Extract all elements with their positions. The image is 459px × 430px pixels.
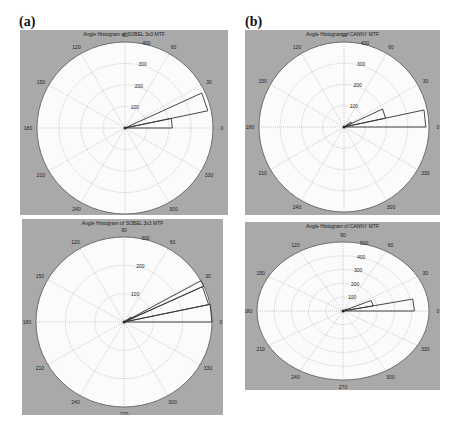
angle-tick-label: 300 [387,204,396,210]
radial-tick-label: 200 [135,83,144,89]
angle-tick-label: 150 [258,78,267,84]
angle-tick-label: 90 [341,32,347,38]
angle-tick-label: 0 [221,125,224,131]
chart-title: Angle Histogram of SOBEL 3x3 MTF [82,220,164,226]
angle-tick-label: 90 [122,32,128,38]
panel-label-b: (b) [245,14,262,30]
angle-tick-label: 240 [293,204,302,210]
radial-tick-label: 500 [360,240,369,246]
angle-tick-label: 60 [170,239,176,245]
angle-tick-label: 120 [293,44,302,50]
angle-tick-label: 240 [71,399,80,405]
angle-tick-label: 150 [257,270,266,276]
angle-tick-label: 60 [388,242,394,248]
angle-tick-label: 330 [204,365,213,371]
angle-tick-label: 0 [220,319,223,325]
polar-plot-svg: Angle Histogram of CANNY MTF100200300400… [245,30,440,215]
radial-tick-label: 300 [141,235,150,241]
chart-title: Angle Histogram of CANNY MTF [306,223,379,229]
angle-tick-label: 150 [36,273,45,279]
angle-tick-label: 30 [422,270,428,276]
polar-chart-canny-d: Angle Histogram of CANNY MTF100200300400… [245,222,440,390]
angle-tick-label: 330 [421,170,430,176]
radial-tick-label: 400 [357,254,366,260]
radial-tick-label: 200 [136,263,145,269]
origin-marker [123,321,126,324]
angle-tick-label: 150 [37,79,46,85]
radial-tick-label: 300 [354,267,363,273]
polar-plot-svg: Angle Histogram of SOBEL 3x3 MTF10020030… [22,219,223,415]
angle-tick-label: 330 [205,172,214,178]
angle-tick-label: 180 [246,124,255,130]
radial-tick-label: 100 [131,291,140,297]
angle-tick-label: 0 [437,308,440,314]
angle-tick-label: 210 [37,172,46,178]
angle-tick-label: 30 [205,273,211,279]
polar-chart-canny-b: Angle Histogram of CANNY MTF100200300400… [245,30,440,215]
angle-tick-label: 60 [388,44,394,50]
polar-chart-sobel-c: Angle Histogram of SOBEL 3x3 MTF10020030… [22,219,223,415]
radial-tick-label: 200 [353,82,362,88]
angle-tick-label: 30 [206,79,212,85]
radial-tick-label: 300 [357,61,366,67]
angle-tick-label: 30 [423,78,429,84]
polar-plot-svg: Angle Histogram of SOBEL 3x3 MTF10020030… [20,30,228,215]
radial-tick-label: 100 [348,294,357,300]
radial-tick-label: 100 [131,104,140,110]
angle-tick-label: 270 [120,411,129,415]
origin-marker [124,127,127,130]
angle-tick-label: 240 [291,374,300,380]
angle-tick-label: 300 [169,206,178,212]
angle-tick-label: 210 [258,170,267,176]
angle-tick-label: 270 [339,384,348,390]
angle-tick-label: 180 [24,125,33,131]
radial-tick-label: 400 [361,40,370,46]
angle-tick-label: 120 [71,239,80,245]
angle-tick-label: 60 [171,44,177,50]
origin-marker [343,126,346,129]
angle-tick-label: 90 [121,227,127,233]
angle-tick-label: 180 [23,319,32,325]
radial-tick-label: 400 [142,40,151,46]
panel-label-a: (a) [19,14,35,30]
polar-chart-sobel-a: Angle Histogram of SOBEL 3x3 MTF10020030… [20,30,228,215]
origin-marker [342,310,345,313]
angle-tick-label: 210 [257,346,266,352]
angle-tick-label: 330 [421,346,430,352]
angle-tick-label: 210 [36,365,45,371]
radial-tick-label: 100 [350,103,359,109]
radial-tick-label: 200 [351,281,360,287]
angle-tick-label: 120 [72,44,81,50]
angle-tick-label: 300 [168,399,177,405]
angle-tick-label: 300 [386,374,395,380]
radial-tick-label: 300 [138,61,147,67]
angle-tick-label: 0 [437,124,440,130]
angle-tick-label: 120 [291,242,300,248]
polar-plot-svg: Angle Histogram of CANNY MTF100200300400… [245,222,440,390]
angle-tick-label: 180 [245,308,252,314]
angle-tick-label: 90 [340,232,346,238]
angle-tick-label: 240 [72,206,81,212]
